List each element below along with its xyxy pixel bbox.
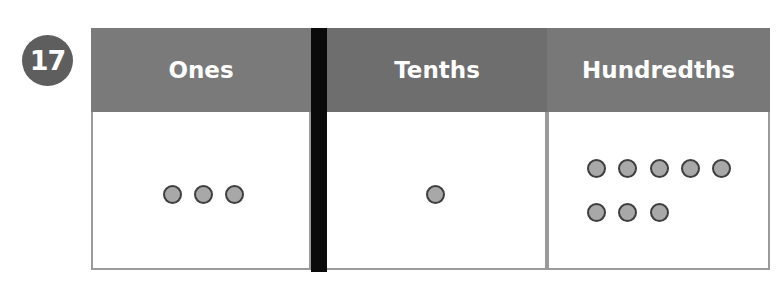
- counter-dot: [587, 203, 606, 222]
- problem-number-badge: 17: [22, 35, 73, 86]
- counter-dot: [618, 159, 637, 178]
- counter-dot: [712, 159, 731, 178]
- column-ones: Ones: [91, 28, 311, 270]
- decimal-point-divider: [311, 28, 327, 272]
- cell-tenths: [327, 112, 547, 270]
- header-ones: Ones: [91, 28, 311, 112]
- counter-dot: [225, 185, 244, 204]
- column-tenths: Tenths: [327, 28, 547, 270]
- counter-dot: [587, 159, 606, 178]
- counter-dot: [163, 185, 182, 204]
- header-hundredths: Hundredths: [547, 28, 770, 112]
- counter-dot: [650, 159, 669, 178]
- header-tenths: Tenths: [327, 28, 547, 112]
- counter-dot: [618, 203, 637, 222]
- cell-hundredths: [547, 112, 770, 270]
- counter-dot: [650, 203, 669, 222]
- column-hundredths: Hundredths: [547, 28, 770, 270]
- counter-dot: [194, 185, 213, 204]
- counter-dot: [681, 159, 700, 178]
- place-value-chart: Ones Tenths Hundredths: [91, 28, 770, 270]
- counter-dot: [426, 185, 445, 204]
- cell-ones: [91, 112, 311, 270]
